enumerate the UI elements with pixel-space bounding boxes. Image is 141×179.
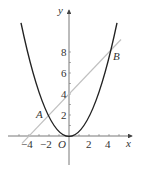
line-curve [22, 40, 121, 144]
point-a-label: A [35, 108, 43, 120]
graph: x y O −4 −2 2 4 2 4 6 8 A B [0, 0, 141, 179]
y-tick-label: 4 [61, 88, 67, 100]
y-tick-label: 8 [61, 46, 67, 58]
x-tick-label: 2 [86, 138, 92, 150]
y-axis-label: y [57, 4, 63, 16]
origin-label: O [58, 138, 66, 150]
y-tick-label: 6 [61, 67, 67, 79]
x-axis-label: x [125, 137, 131, 149]
x-tick-label: −2 [40, 138, 52, 150]
x-tick-label: −4 [21, 138, 33, 150]
point-b-label: B [113, 50, 120, 62]
x-tick-label: 4 [105, 138, 111, 150]
y-tick-label: 2 [61, 109, 67, 121]
